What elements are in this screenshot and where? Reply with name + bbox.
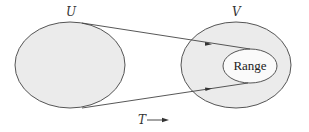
transform-label: T	[138, 113, 147, 127]
range-label: Range	[233, 58, 266, 73]
domain-set-u	[15, 22, 125, 108]
linear-transformation-diagram: U V Range T	[0, 0, 309, 132]
domain-label: U	[66, 5, 77, 19]
codomain-label: V	[232, 5, 242, 19]
transform-arrow-icon	[147, 118, 169, 122]
